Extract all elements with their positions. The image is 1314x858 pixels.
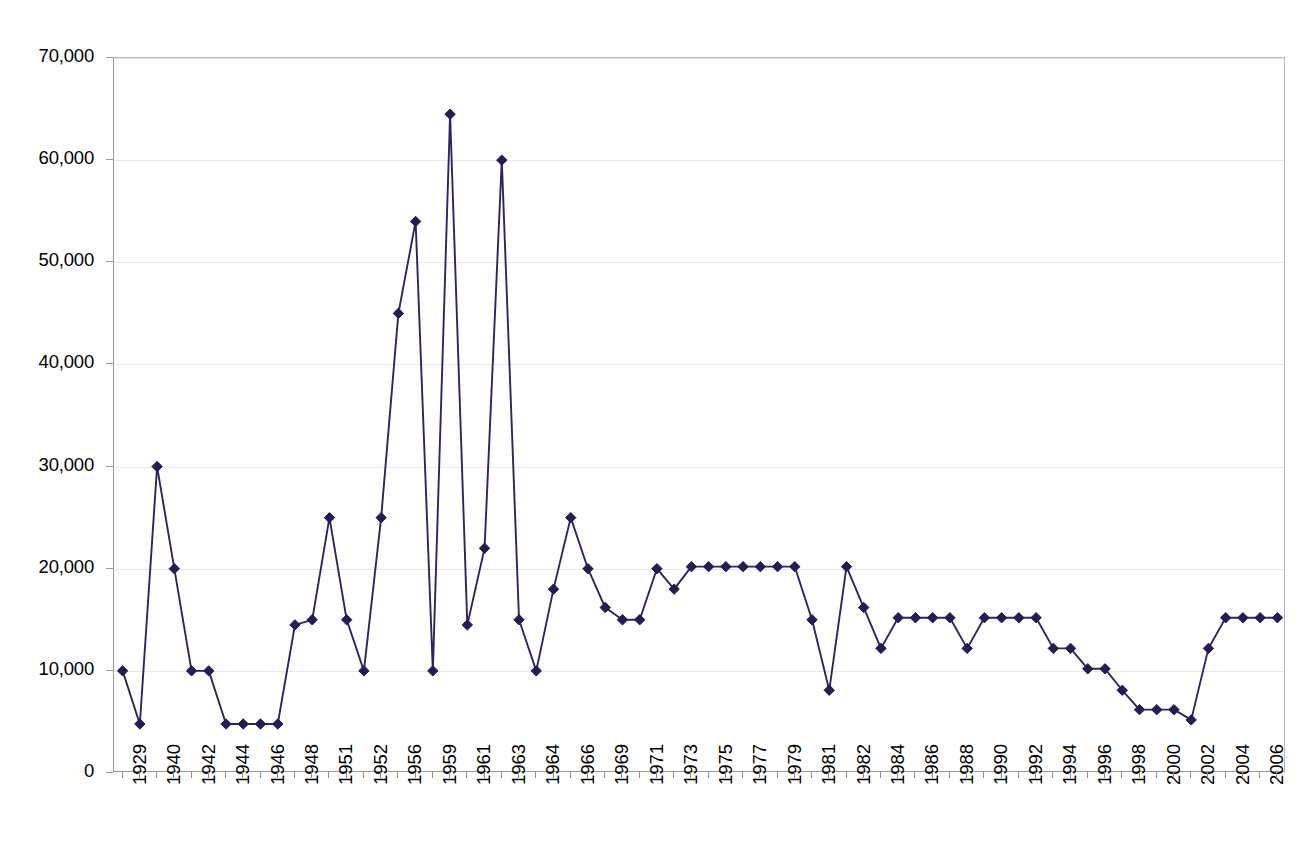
x-tick-mark — [656, 772, 657, 778]
x-tick-mark — [811, 772, 812, 778]
x-tick-mark — [191, 772, 192, 778]
x-tick-mark — [518, 772, 519, 778]
x-tick-label: 1946 — [267, 744, 289, 785]
y-tick-mark — [106, 670, 113, 671]
x-tick-mark — [1087, 772, 1088, 778]
x-tick-label: 1971 — [646, 744, 668, 785]
x-tick-mark — [1207, 772, 1208, 778]
x-tick-mark — [363, 772, 364, 778]
x-tick-mark — [294, 772, 295, 778]
x-tick-mark — [156, 772, 157, 778]
x-tick-label: 1959 — [439, 744, 461, 785]
x-tick-label: 1964 — [542, 744, 564, 785]
x-tick-mark — [1052, 772, 1053, 778]
x-tick-mark — [122, 772, 123, 778]
x-tick-mark — [1139, 772, 1140, 778]
x-tick-label: 1963 — [508, 744, 530, 785]
x-tick-mark — [1070, 772, 1071, 778]
x-tick-label: 1969 — [611, 744, 633, 785]
x-tick-label: 1994 — [1059, 744, 1081, 785]
x-tick-mark — [415, 772, 416, 778]
x-tick-label: 1990 — [990, 744, 1012, 785]
x-tick-mark — [1173, 772, 1174, 778]
x-tick-label: 2006 — [1266, 744, 1288, 785]
x-tick-label: 2000 — [1163, 744, 1185, 785]
x-tick-mark — [208, 772, 209, 778]
x-tick-mark — [225, 772, 226, 778]
y-tick-label: 0 — [8, 760, 94, 782]
x-tick-label: 1973 — [680, 744, 702, 785]
x-tick-label: 1988 — [956, 744, 978, 785]
data-point-marker — [117, 666, 127, 676]
x-tick-mark — [690, 772, 691, 778]
x-tick-mark — [397, 772, 398, 778]
y-tick-label: 40,000 — [8, 351, 94, 373]
x-tick-mark — [794, 772, 795, 778]
x-tick-mark — [742, 772, 743, 778]
x-tick-mark — [277, 772, 278, 778]
x-tick-mark — [570, 772, 571, 778]
x-tick-mark — [914, 772, 915, 778]
y-tick-mark — [106, 159, 113, 160]
x-tick-label: 1929 — [129, 744, 151, 785]
x-tick-label: 1944 — [232, 744, 254, 785]
x-tick-mark — [1225, 772, 1226, 778]
x-tick-label: 1986 — [921, 744, 943, 785]
x-tick-mark — [983, 772, 984, 778]
x-tick-label: 1984 — [887, 744, 909, 785]
y-tick-mark — [106, 772, 113, 773]
x-tick-mark — [380, 772, 381, 778]
x-tick-mark — [725, 772, 726, 778]
x-tick-label: 1981 — [818, 744, 840, 785]
x-tick-mark — [1104, 772, 1105, 778]
x-tick-mark — [501, 772, 502, 778]
x-tick-mark — [949, 772, 950, 778]
x-tick-mark — [553, 772, 554, 778]
y-tick-label: 60,000 — [8, 147, 94, 169]
x-tick-label: 1992 — [1025, 744, 1047, 785]
x-tick-label: 1979 — [784, 744, 806, 785]
x-tick-label: 1952 — [370, 744, 392, 785]
y-tick-label: 70,000 — [8, 45, 94, 67]
y-tick-label: 50,000 — [8, 249, 94, 271]
x-tick-mark — [604, 772, 605, 778]
x-tick-mark — [1156, 772, 1157, 778]
y-tick-mark — [106, 261, 113, 262]
x-tick-mark — [846, 772, 847, 778]
x-tick-label: 1975 — [715, 744, 737, 785]
x-tick-mark — [311, 772, 312, 778]
x-tick-label: 1951 — [335, 744, 357, 785]
series-polyline — [123, 114, 1278, 724]
x-tick-mark — [639, 772, 640, 778]
y-tick-label: 20,000 — [8, 556, 94, 578]
y-tick-mark — [106, 466, 113, 467]
x-tick-mark — [897, 772, 898, 778]
x-tick-label: 1956 — [404, 744, 426, 785]
x-tick-label: 1977 — [749, 744, 771, 785]
x-tick-label: 1966 — [577, 744, 599, 785]
x-tick-mark — [621, 772, 622, 778]
x-tick-label: 1948 — [301, 744, 323, 785]
x-tick-label: 1996 — [1094, 744, 1116, 785]
x-tick-mark — [139, 772, 140, 778]
x-tick-mark — [1276, 772, 1277, 778]
y-tick-label: 10,000 — [8, 658, 94, 680]
x-tick-mark — [449, 772, 450, 778]
x-tick-mark — [1035, 772, 1036, 778]
line-chart: 010,00020,00030,00040,00050,00060,00070,… — [0, 0, 1314, 858]
x-tick-mark — [777, 772, 778, 778]
x-tick-label: 2002 — [1197, 744, 1219, 785]
x-tick-mark — [673, 772, 674, 778]
x-tick-mark — [242, 772, 243, 778]
x-tick-mark — [587, 772, 588, 778]
y-tick-mark — [106, 57, 113, 58]
x-tick-mark — [1190, 772, 1191, 778]
x-tick-mark — [466, 772, 467, 778]
x-tick-mark — [966, 772, 967, 778]
x-tick-mark — [1001, 772, 1002, 778]
y-tick-label: 30,000 — [8, 454, 94, 476]
x-tick-mark — [346, 772, 347, 778]
x-tick-mark — [880, 772, 881, 778]
x-tick-mark — [759, 772, 760, 778]
x-tick-label: 1982 — [853, 744, 875, 785]
